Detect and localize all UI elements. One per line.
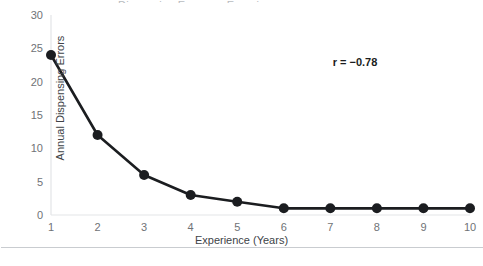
x-tick-label: 8	[362, 221, 392, 233]
chart-svg	[51, 15, 470, 215]
data-markers	[46, 50, 475, 213]
data-point	[232, 197, 242, 207]
y-tick-label: 15	[17, 109, 43, 121]
data-point	[325, 203, 335, 213]
y-tick-label: 30	[17, 9, 43, 21]
y-tick-label: 10	[17, 142, 43, 154]
chart-figure: Dispensing Errors vs Experience 05101520…	[0, 0, 483, 266]
panel-left-edge	[0, 0, 1, 248]
y-tick-label: 5	[17, 176, 43, 188]
data-point	[139, 170, 149, 180]
y-tick-label: 20	[17, 76, 43, 88]
data-point	[93, 130, 103, 140]
x-tick-label: 10	[455, 221, 483, 233]
data-point	[186, 190, 196, 200]
x-tick-label: 1	[36, 221, 66, 233]
x-tick-label: 4	[176, 221, 206, 233]
data-point	[279, 203, 289, 213]
correlation-annotation: r = −0.78	[300, 56, 410, 69]
x-tick-label: 6	[269, 221, 299, 233]
plot-area: 051015202530 12345678910	[51, 15, 470, 215]
panel-bottom-fill	[0, 248, 483, 266]
axis-spines	[51, 15, 470, 215]
data-point	[465, 203, 475, 213]
x-tick-label: 9	[408, 221, 438, 233]
x-axis-label: Experience (Years)	[0, 234, 483, 246]
x-tick-label: 5	[222, 221, 252, 233]
data-point	[372, 203, 382, 213]
x-tick-label: 3	[129, 221, 159, 233]
x-tick-label: 2	[83, 221, 113, 233]
y-tick-label: 0	[17, 209, 43, 221]
cropped-title-fragment: Dispensing Errors vs Experience	[118, 0, 368, 3]
data-line	[51, 55, 470, 208]
x-tick-label: 7	[315, 221, 345, 233]
data-point	[418, 203, 428, 213]
y-axis-label: Annual Dispensing Errors	[54, 28, 66, 168]
y-tick-label: 25	[17, 42, 43, 54]
